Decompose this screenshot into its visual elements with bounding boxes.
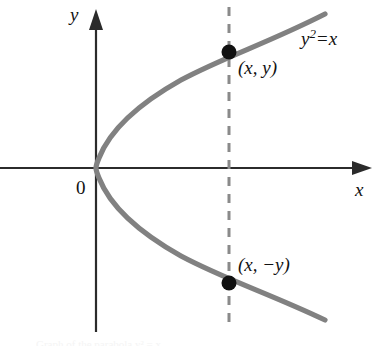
x-axis-arrowhead xyxy=(352,161,372,175)
plot-canvas xyxy=(0,0,379,349)
x-axis-label: x xyxy=(355,180,363,199)
y-axis-arrowhead xyxy=(89,9,103,30)
point-upper-label: (x, y) xyxy=(238,58,277,77)
point-lower-label: (x, −y) xyxy=(238,255,290,274)
y-axis-label: y xyxy=(70,5,78,24)
point-upper-marker xyxy=(222,45,237,60)
caption-remnant: Graph of the parabola y² = x xyxy=(36,338,296,346)
curve-equation-exponent: 2 xyxy=(309,26,316,41)
curve-equation-label: y2=x xyxy=(301,27,337,48)
point-lower-marker xyxy=(222,276,237,291)
origin-label: 0 xyxy=(76,178,86,197)
parabola-figure: y x 0 y2=x (x, y) (x, −y) Graph of the p… xyxy=(0,0,379,349)
curve-equation-rhs: x xyxy=(329,28,337,49)
curve-equation-relation: = xyxy=(316,28,329,49)
